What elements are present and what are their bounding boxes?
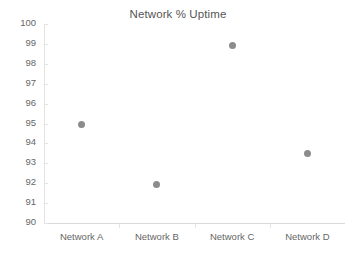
data-point[interactable]	[229, 42, 236, 49]
y-axis-tick-label: 90	[25, 216, 36, 227]
y-axis-tick-label: 91	[25, 196, 36, 207]
data-point[interactable]	[304, 150, 311, 157]
y-axis-tick-mark	[44, 223, 48, 224]
plot-area	[44, 24, 345, 223]
y-axis-tick-label: 99	[25, 37, 36, 48]
y-axis-tick-label: 95	[25, 117, 36, 128]
data-point[interactable]	[153, 181, 160, 188]
y-axis-tick-label: 96	[25, 97, 36, 108]
chart-title: Network % Uptime	[0, 8, 356, 20]
x-axis-tick-mark	[270, 224, 271, 228]
y-axis-tick-label: 97	[25, 77, 36, 88]
y-axis-tick-label: 92	[25, 176, 36, 187]
y-axis-tick-label: 98	[25, 57, 36, 68]
chart-container: Network % Uptime 10099989796959493929190…	[0, 0, 356, 258]
y-axis-tick-label: 93	[25, 156, 36, 167]
data-point[interactable]	[78, 121, 85, 128]
x-axis-tick-mark	[195, 224, 196, 228]
x-axis-tick-label: Network C	[195, 231, 270, 242]
x-axis-tick-label: Network A	[44, 231, 119, 242]
x-axis-tick-label: Network B	[119, 231, 194, 242]
x-axis-tick-mark	[119, 224, 120, 228]
y-axis-tick-label: 94	[25, 136, 36, 147]
x-axis-tick-label: Network D	[270, 231, 345, 242]
y-axis-tick-label: 100	[20, 17, 36, 28]
